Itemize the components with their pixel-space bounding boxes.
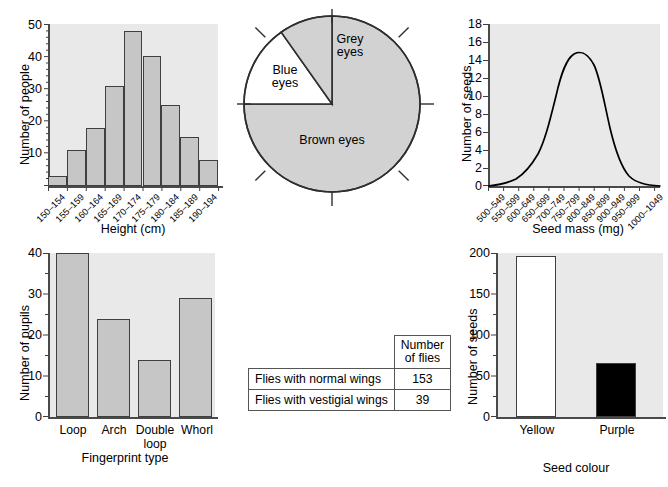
bar-arch xyxy=(97,319,130,417)
panel4-ytick-40: 40 xyxy=(18,246,42,260)
panel4-x-axis xyxy=(48,417,218,419)
panel1-ytick-50: 50 xyxy=(18,18,42,32)
panel4-ytick-20: 20 xyxy=(18,328,42,342)
panel3-ytick-6: 6 xyxy=(460,125,482,139)
flies-table-panel: Number of flies Flies with normal wings … xyxy=(248,335,448,425)
table-row-label-vestigial-wings: Flies with vestigial wings xyxy=(249,390,395,411)
table-row-value-vestigial-wings: 39 xyxy=(394,390,450,411)
panel4-ytick-30: 30 xyxy=(18,287,42,301)
panel4-xlabel-whorl: Whorl xyxy=(175,423,219,437)
panel4-xlabel-double-line2: loop xyxy=(130,437,180,451)
panel3-x-axis-label: Seed mass (mg) xyxy=(498,222,658,236)
panel4-xlabel-arch: Arch xyxy=(93,423,135,437)
panel6-y-axis-label: Number of seeds xyxy=(466,308,480,405)
bar-155-159 xyxy=(67,150,86,186)
panel6-ytick-100: 100 xyxy=(456,328,490,342)
panel3-ytick-2: 2 xyxy=(460,161,482,175)
panel1-ytick-30: 30 xyxy=(18,82,42,96)
panel6-x-axis xyxy=(496,417,666,419)
panel6-ytick-200: 200 xyxy=(456,246,490,260)
panel1-x-axis-label: Height (cm) xyxy=(58,222,208,236)
panel3-ytick-16: 16 xyxy=(460,35,482,49)
panel6-ytick-150: 150 xyxy=(456,287,490,301)
bar-loop xyxy=(56,253,89,417)
panel4-ytick-10: 10 xyxy=(18,369,42,383)
bar-185-189 xyxy=(180,137,199,186)
panel6-y-axis xyxy=(496,253,498,418)
pie-label-blue-line2: eyes xyxy=(272,76,298,90)
bar-whorl xyxy=(179,298,212,417)
seed-colour-panel: Number of seeds 200 150 100 50 0 Yellow … xyxy=(448,243,668,487)
eye-colour-pie-panel: Grey eyes Blue eyes Brown eyes xyxy=(232,0,442,230)
bar-yellow-seeds xyxy=(516,256,556,417)
panel4-y-axis-label: Number of pupils xyxy=(18,305,32,401)
table-header-row: Number of flies xyxy=(249,336,451,369)
panel4-y-axis xyxy=(48,253,50,418)
panel3-ytick-10: 10 xyxy=(460,89,482,103)
panel3-ytick-4: 4 xyxy=(460,143,482,157)
table-row: Flies with vestigial wings 39 xyxy=(249,390,451,411)
bar-190-194 xyxy=(199,160,218,186)
panel4-ytick-0: 0 xyxy=(18,410,42,424)
bar-180-184 xyxy=(161,105,180,186)
panel6-xlabel-yellow: Yellow xyxy=(510,423,564,437)
panel1-ytick-20: 20 xyxy=(18,114,42,128)
table-row: Flies with normal wings 153 xyxy=(249,369,451,390)
panel6-xlabel-purple: Purple xyxy=(590,423,644,437)
bar-170-174 xyxy=(124,31,143,187)
table-header-line1: Number xyxy=(401,338,444,352)
panel4-xlabel-loop: Loop xyxy=(52,423,94,437)
bar-165-169 xyxy=(105,86,124,186)
panel3-ytick-12: 12 xyxy=(460,71,482,85)
table-row-value-normal-wings: 153 xyxy=(394,369,450,390)
panel1-ytick-10: 10 xyxy=(18,146,42,160)
table-header-number-of-flies: Number of flies xyxy=(394,336,450,369)
fingerprint-panel: Number of pupils 40 30 20 10 0 Loop Arch… xyxy=(0,243,230,487)
panel1-y-axis xyxy=(48,24,50,187)
bar-double-loop xyxy=(138,360,171,417)
pie-label-brown: Brown eyes xyxy=(286,134,378,147)
seed-mass-panel: Number of seeds 18 16 14 12 10 8 6 4 2 0 xyxy=(448,0,668,240)
pie-label-grey-line1: Grey xyxy=(336,32,363,46)
bar-175-179 xyxy=(143,56,162,186)
panel6-ytick-50: 50 xyxy=(456,369,490,383)
panel3-ytick-0: 0 xyxy=(460,179,482,193)
table-header-empty-cell xyxy=(249,336,395,369)
panel3-ytick-14: 14 xyxy=(460,53,482,67)
pie-label-grey-line2: eyes xyxy=(337,45,363,59)
panel3-ytick-18: 18 xyxy=(460,17,482,31)
seed-mass-curve xyxy=(488,20,662,190)
panel4-x-axis-label: Fingerprint type xyxy=(50,451,200,465)
table-row-label-normal-wings: Flies with normal wings xyxy=(249,369,395,390)
panel4-xlabel-double: Double xyxy=(130,423,180,437)
panel3-ytick-8: 8 xyxy=(460,107,482,121)
pie-label-grey: Grey eyes xyxy=(324,33,376,59)
flies-table: Number of flies Flies with normal wings … xyxy=(248,335,451,411)
panel1-ytick-40: 40 xyxy=(18,50,42,64)
panel6-ytick-0: 0 xyxy=(456,410,490,424)
table-header-line2: of flies xyxy=(405,351,440,365)
pie-label-blue: Blue eyes xyxy=(262,64,308,90)
height-histogram-panel: Number of people 50 40 30 20 10 xyxy=(0,0,230,240)
bar-150-154 xyxy=(48,176,67,186)
bar-purple-seeds xyxy=(596,363,636,417)
panel6-x-axis-label: Seed colour xyxy=(506,461,646,475)
bar-160-164 xyxy=(86,128,105,186)
pie-label-blue-line1: Blue xyxy=(272,63,297,77)
